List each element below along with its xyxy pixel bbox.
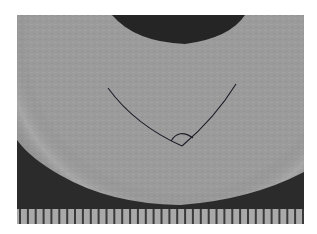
ruler-tick <box>27 209 29 224</box>
ruler-tick <box>247 209 249 224</box>
ruler-tick <box>208 209 210 224</box>
ruler-tick <box>90 209 92 224</box>
ruler-tick <box>82 209 84 224</box>
ruler-tick <box>278 209 280 224</box>
ruler-tick <box>153 209 155 224</box>
ruler-tick <box>176 209 178 224</box>
ruler-tick <box>66 209 68 224</box>
ruler-tick <box>231 209 233 224</box>
ruler-tick <box>192 209 194 224</box>
ruler-tick <box>106 209 108 224</box>
ruler-tick <box>98 209 100 224</box>
ruler-tick <box>184 209 186 224</box>
ruler-tick <box>43 209 45 224</box>
ruler-tick <box>200 209 202 224</box>
ruler-tick <box>294 209 296 224</box>
ruler-tick <box>58 209 60 224</box>
ruler-tick <box>223 209 225 224</box>
ruler-tick <box>302 209 304 224</box>
ruler-tick <box>35 209 37 224</box>
ruler-tick <box>216 209 218 224</box>
disc-photo <box>17 15 304 225</box>
ruler-tick <box>19 209 21 224</box>
ruler-tick <box>113 209 115 224</box>
ruler-tick <box>239 209 241 224</box>
ruler-tick <box>161 209 163 224</box>
ruler-tick <box>74 209 76 224</box>
ruler-tick <box>255 209 257 224</box>
ruler-tick <box>145 209 147 224</box>
ruler-tick <box>121 209 123 224</box>
ruler-tick <box>271 209 273 224</box>
ruler-tick <box>50 209 52 224</box>
ruler-tick <box>263 209 265 224</box>
ruler-tick <box>137 209 139 224</box>
ruler-tick <box>168 209 170 224</box>
ruler-tick <box>286 209 288 224</box>
scale-ruler <box>17 209 304 224</box>
ruler-tick <box>129 209 131 224</box>
